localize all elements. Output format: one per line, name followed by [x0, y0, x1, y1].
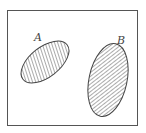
venn-diagram: A B	[0, 0, 146, 133]
set-a-label: A	[33, 31, 42, 44]
set-b-label: B	[116, 34, 125, 47]
